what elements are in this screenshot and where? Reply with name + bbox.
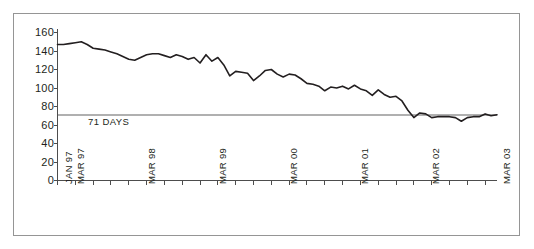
ytick-label-60: 60 xyxy=(20,120,54,131)
ytick-label-40: 40 xyxy=(20,138,54,149)
ytick-label-20: 20 xyxy=(20,157,54,168)
xtick-label-mar-00: MAR 00 xyxy=(288,148,299,184)
reference-line-label: 71 DAYS xyxy=(88,116,129,127)
xtick-label-mar-03: MAR 03 xyxy=(501,148,512,184)
xtick-label-mar-99: MAR 99 xyxy=(217,148,228,184)
xtick-label-mar-97: MAR 97 xyxy=(75,148,86,184)
chart-figure: 160 140 120 100 80 60 40 20 0 JAN 97 MAR… xyxy=(0,0,534,249)
ytick-label-120: 120 xyxy=(20,64,54,75)
xtick-label-mar-02: MAR 02 xyxy=(430,148,441,184)
xtick-label-mar-98: MAR 98 xyxy=(146,148,157,184)
xtick-label-jan-97: JAN 97 xyxy=(63,151,74,184)
ytick-label-140: 140 xyxy=(20,46,54,57)
ytick-label-100: 100 xyxy=(20,83,54,94)
xtick-label-mar-01: MAR 01 xyxy=(359,148,370,184)
ytick-label-0: 0 xyxy=(20,175,54,186)
ytick-label-160: 160 xyxy=(20,27,54,38)
ytick-label-80: 80 xyxy=(20,101,54,112)
line-chart-plot xyxy=(0,0,534,249)
